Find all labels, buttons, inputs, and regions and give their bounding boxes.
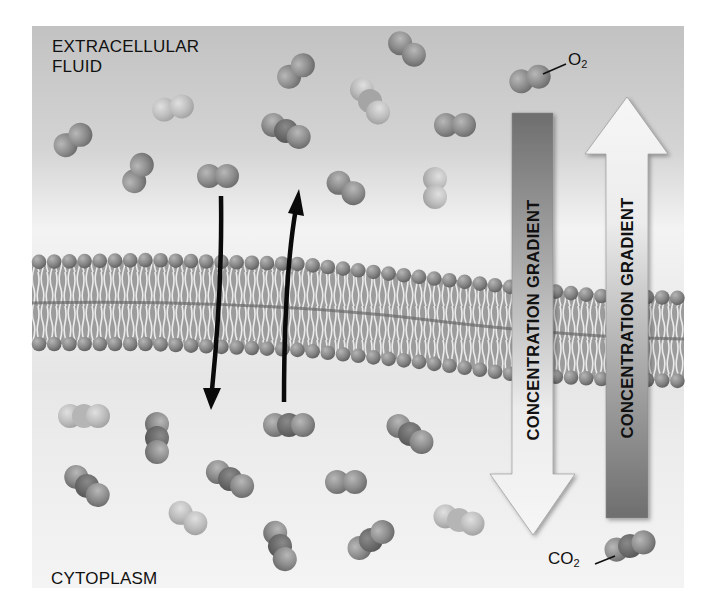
co2-formula-label: CO2 bbox=[548, 549, 580, 569]
co2-subscript: 2 bbox=[574, 557, 580, 569]
co2-molecule bbox=[145, 412, 169, 464]
extracellular-label-line2: FLUID bbox=[52, 57, 199, 77]
extracellular-fluid-label: EXTRACELLULAR FLUID bbox=[52, 37, 199, 77]
o2-formula-label: O2 bbox=[568, 50, 587, 70]
diffusion-diagram: CONCENTRATION GRADIENT CONCENTRATION GRA… bbox=[0, 0, 710, 609]
cytoplasm-label: CYTOPLASM bbox=[51, 569, 157, 589]
co2-molecule bbox=[58, 404, 110, 428]
diagram-canvas: CONCENTRATION GRADIENT CONCENTRATION GRA… bbox=[0, 0, 710, 609]
extracellular-label-line1: EXTRACELLULAR bbox=[52, 37, 199, 57]
o2-subscript: 2 bbox=[581, 58, 587, 70]
co2-molecule-exiting bbox=[263, 413, 315, 437]
o2-gradient-label: CONCENTRATION GRADIENT bbox=[524, 200, 542, 441]
co2-gradient-label: CONCENTRATION GRADIENT bbox=[618, 198, 636, 439]
o2-base: O bbox=[568, 50, 581, 69]
co2-base: CO bbox=[548, 549, 574, 568]
